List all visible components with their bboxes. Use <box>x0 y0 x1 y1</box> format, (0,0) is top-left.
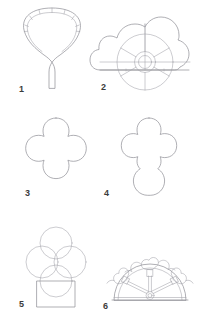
figure-1-label: 1 <box>19 85 24 94</box>
figure-3-label: 3 <box>25 189 30 198</box>
figure-5-label: 5 <box>19 300 24 309</box>
figure-6-inner-lobes <box>125 260 175 272</box>
figure-6-arm-center <box>141 258 158 293</box>
figure-6-semicircular-fanlight-tracery <box>107 258 193 301</box>
figure-3-quatrefoil <box>26 118 87 179</box>
figure-2-cusped-wheel-tracery <box>90 17 190 90</box>
tracery-plate <box>0 0 206 325</box>
figure-2-label: 2 <box>101 83 106 92</box>
figure-1-fan-vault-shell <box>24 8 81 88</box>
figure-6-label: 6 <box>103 302 108 311</box>
figure-4-label: 4 <box>104 189 109 198</box>
figure-4-vertical-trefoil-panel <box>121 118 176 195</box>
figure-5-trefoil-construction-circles <box>26 227 86 307</box>
